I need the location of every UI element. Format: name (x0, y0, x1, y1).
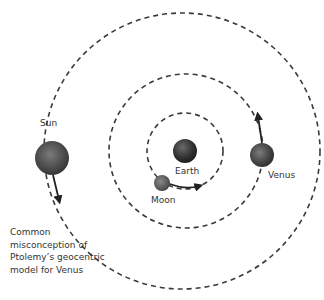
sun-label: Sun (40, 118, 57, 128)
venus-body (250, 143, 274, 167)
diagram-caption: Common misconception of Ptolemy’s geocen… (10, 226, 105, 276)
sun-body (35, 141, 69, 175)
caption-line-4: model for Venus (10, 264, 105, 277)
earth-body (173, 139, 197, 163)
earth-label: Earth (175, 166, 199, 176)
caption-line-2: misconception of (10, 239, 105, 252)
caption-line-3: Ptolemy’s geocentric (10, 251, 105, 264)
venus-label: Venus (268, 170, 295, 180)
venus-motion-arrow (258, 116, 262, 143)
moon-label: Moon (151, 195, 175, 205)
moon-motion-arrow (170, 184, 199, 188)
sun-motion-arrow (53, 175, 59, 200)
moon-body (154, 175, 170, 191)
caption-line-1: Common (10, 226, 105, 239)
